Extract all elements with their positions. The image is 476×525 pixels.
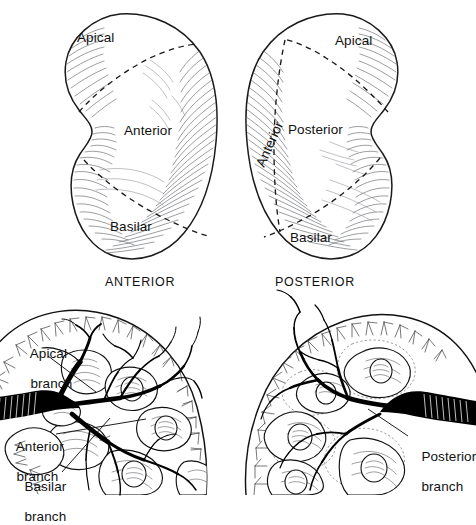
posterior-branch-label-line1: Posterior bbox=[421, 449, 476, 464]
apical-branch-label-line1: Apical bbox=[30, 346, 67, 361]
anterior-branch-label-line1: Anterior bbox=[16, 439, 64, 454]
basilar-branch-label: Basilar branch bbox=[9, 464, 66, 525]
apical-branch-label-line2: branch bbox=[30, 376, 72, 391]
posterior-branch-label: Posterior branch bbox=[406, 434, 476, 510]
right-posterior-branch-vessel bbox=[348, 398, 388, 406]
posterior-branch-label-line2: branch bbox=[421, 479, 463, 494]
right-lower-branch-vessel bbox=[346, 414, 380, 434]
basilar-branch-label-line1: Basilar bbox=[24, 479, 66, 494]
basilar-branch-label-line2: branch bbox=[24, 509, 66, 524]
apical-branch-label: Apical branch bbox=[15, 331, 72, 407]
